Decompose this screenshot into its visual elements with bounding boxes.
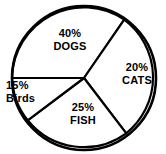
pie-label-fish-name: FISH — [54, 114, 112, 127]
pie-label-cats-percent: 20% — [110, 61, 164, 74]
pie-label-birds-name: Birds — [6, 92, 56, 105]
pie-label-dogs: 40% DOGS — [34, 27, 106, 53]
pie-label-fish: 25% FISH — [54, 101, 112, 127]
pie-label-fish-percent: 25% — [54, 101, 112, 114]
pie-label-dogs-name: DOGS — [34, 40, 106, 53]
pie-chart: 40% DOGS 20% CATS 25% FISH 15% Birds — [0, 0, 166, 154]
pie-label-cats: 20% CATS — [110, 61, 164, 87]
pie-label-dogs-percent: 40% — [34, 27, 106, 40]
pie-label-birds-percent: 15% — [6, 79, 56, 92]
pie-label-cats-name: CATS — [110, 74, 164, 87]
pie-label-birds: 15% Birds — [6, 79, 56, 105]
